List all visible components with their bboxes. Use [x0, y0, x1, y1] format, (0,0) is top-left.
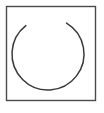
- arc-diagram-svg: [0, 0, 104, 113]
- square-border: [7, 7, 96, 101]
- open-circle-arc: [12, 23, 84, 90]
- figure-canvas: Open circular arc inside a square frame: [0, 0, 104, 113]
